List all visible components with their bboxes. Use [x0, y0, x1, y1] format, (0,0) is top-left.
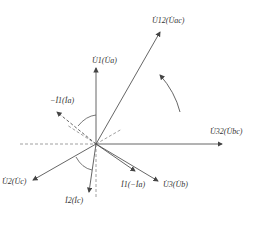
label-i1: İ1(−İa): [121, 181, 145, 189]
phasor-i1: [96, 144, 135, 171]
rotation-direction-arrow-icon: [160, 75, 180, 112]
phasor-u12: [96, 32, 160, 144]
phasor-u2: [33, 144, 96, 180]
label-u32: U̇32(U̇bc): [210, 128, 242, 136]
phasor-i2: [89, 144, 96, 192]
label-i2: İ2(İc): [65, 197, 83, 205]
dashed-reference-lines: [20, 125, 122, 198]
label-u3: U̇3(U̇b): [163, 181, 188, 189]
label-u12: U̇12(U̇ac): [152, 17, 184, 25]
angle-arc-upper: [78, 115, 96, 126]
angle-arc-lower: [76, 157, 92, 170]
label-neg-i1: −İ1(İa): [50, 97, 74, 105]
phasor-diagram-canvas: [0, 0, 259, 225]
dashed-ref-line-left: [67, 125, 96, 144]
label-u1: U̇1(U̇a): [92, 57, 117, 65]
label-u2: U̇2(U̇c): [2, 178, 26, 186]
phasor-u3: [96, 144, 158, 181]
